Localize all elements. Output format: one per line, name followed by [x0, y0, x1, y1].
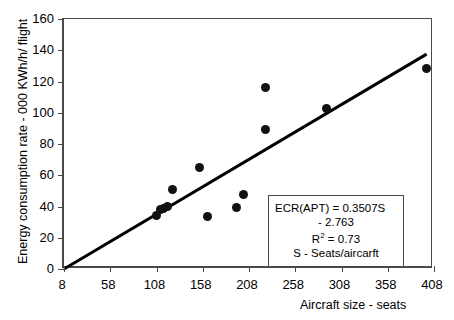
- x-axis-title: Aircraft size - seats: [300, 298, 406, 312]
- y-tick-label: 60: [14, 168, 54, 181]
- annotation-equation-line2: - 2.763: [273, 215, 399, 229]
- x-tick: [295, 266, 296, 272]
- y-tick: [58, 144, 64, 145]
- y-tick: [58, 207, 64, 208]
- x-tick: [110, 266, 111, 272]
- x-tick: [249, 266, 250, 272]
- x-tick-label: 8: [37, 278, 87, 291]
- y-tick-label: 140: [14, 43, 54, 56]
- x-tick-label: 58: [83, 278, 133, 291]
- x-tick: [388, 266, 389, 272]
- y-tick: [58, 50, 64, 51]
- y-tick: [58, 113, 64, 114]
- y-tick: [58, 82, 64, 83]
- data-point: [203, 212, 212, 221]
- regression-annotation-box: ECR(APT) = 0.3507S - 2.763 R2 = 0.73 S -…: [268, 195, 404, 267]
- chart-title: [0, 0, 454, 3]
- y-tick-label: 0: [14, 262, 54, 275]
- x-tick-label: 158: [176, 278, 226, 291]
- y-tick-label: 40: [14, 200, 54, 213]
- data-point: [422, 64, 431, 73]
- y-tick-label: 160: [14, 12, 54, 25]
- x-tick-label: 108: [130, 278, 180, 291]
- x-tick-label: 308: [315, 278, 365, 291]
- r-value: = 0.73: [325, 233, 361, 245]
- x-tick-label: 408: [407, 278, 454, 291]
- x-tick: [64, 266, 65, 272]
- x-tick-label: 258: [268, 278, 318, 291]
- data-point: [322, 104, 331, 113]
- scatter-chart: Energy consumption rate - 000 KWh/h/ fli…: [0, 0, 454, 320]
- x-tick: [203, 266, 204, 272]
- x-tick: [342, 266, 343, 272]
- x-tick-label: 358: [361, 278, 411, 291]
- y-tick-label: 120: [14, 75, 54, 88]
- annotation-seats-note: S - Seats/aircarft: [273, 246, 399, 260]
- y-tick-label: 20: [14, 231, 54, 244]
- y-tick: [58, 238, 64, 239]
- data-point: [168, 185, 177, 194]
- data-point: [239, 190, 248, 199]
- x-tick: [157, 266, 158, 272]
- x-tick-label: 208: [222, 278, 272, 291]
- y-tick-label: 100: [14, 106, 54, 119]
- y-tick: [58, 175, 64, 176]
- r-symbol: R: [312, 233, 320, 245]
- annotation-equation-line1: ECR(APT) = 0.3507S: [273, 201, 399, 215]
- y-tick: [58, 19, 64, 20]
- y-tick-label: 80: [14, 137, 54, 150]
- annotation-r-squared: R2 = 0.73: [273, 229, 399, 246]
- x-tick: [434, 266, 435, 272]
